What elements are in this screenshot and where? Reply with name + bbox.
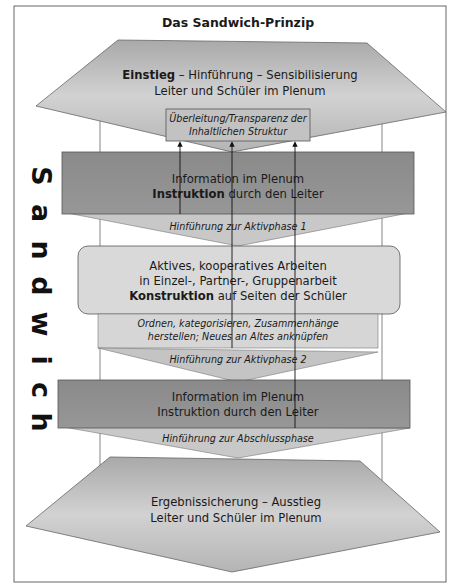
lead-active1-label: Hinführung zur Aktivphase 1 [169, 221, 306, 232]
active-line1: Aktives, kooperatives Arbeiten [149, 259, 327, 273]
order-line1: Ordnen, kategorisieren, Zusammenhänge [137, 318, 338, 329]
svg-text:n: n [26, 240, 57, 259]
sandwich-diagram: Das Sandwich-Prinzip S a n d w i c h Ein… [0, 0, 454, 588]
transition-line1: Überleitung/Transparenz der [169, 112, 307, 124]
entry-line2: Leiter und Schüler im Plenum [154, 84, 325, 98]
svg-text:h: h [26, 412, 57, 431]
info2-line1: Information im Plenum [172, 390, 304, 404]
svg-text:a: a [26, 204, 57, 222]
transition-line2: Inhaltlichen Struktur [189, 126, 288, 137]
svg-text:i: i [26, 355, 57, 364]
svg-text:d: d [26, 276, 57, 295]
order-line2: herstellen; Neues an Altes anknüpfen [148, 331, 328, 342]
lead-active2-label: Hinführung zur Aktivphase 2 [169, 354, 306, 365]
svg-text:c: c [26, 382, 57, 398]
info2-box [58, 380, 410, 428]
info1-line1: Information im Plenum [172, 172, 304, 186]
entry-line1: Einstieg – Hinführung – Sensibilisierung [122, 68, 357, 82]
active-line3: Konstruktion auf Seiten der Schüler [129, 289, 347, 303]
exit-line2: Leiter und Schüler im Plenum [150, 511, 321, 525]
exit-line1: Ergebnissicherung – Ausstieg [151, 495, 321, 509]
info1-line2: Instruktion durch den Leiter [152, 187, 324, 201]
svg-text:S: S [26, 166, 57, 185]
lead-final-label: Hinführung zur Abschlussphase [162, 433, 314, 444]
diagram-title: Das Sandwich-Prinzip [162, 15, 314, 30]
svg-text:w: w [26, 312, 57, 337]
active-line2: in Einzel-, Partner-, Gruppenarbeit [139, 274, 337, 288]
